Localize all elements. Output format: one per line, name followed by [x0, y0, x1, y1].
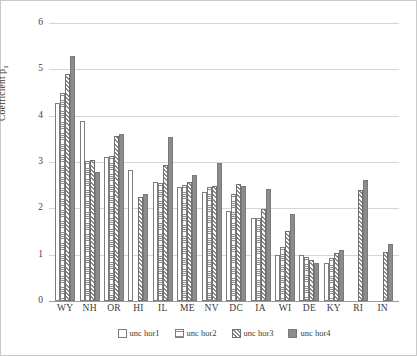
plot-area — [49, 23, 399, 301]
legend-swatch-unc-hor3-icon — [232, 329, 241, 338]
bar-group-wy — [53, 23, 77, 301]
x-tick-label-il: IL — [151, 303, 175, 321]
y-axis-ticks: 0123456 — [1, 23, 49, 301]
x-tick-label-wi: WI — [273, 303, 297, 321]
bar-dc-unc-hor4 — [241, 186, 246, 301]
x-tick-label-me: ME — [175, 303, 199, 321]
bar-ri-unc-hor4 — [363, 180, 368, 301]
x-tick-label-dc: DC — [224, 303, 248, 321]
x-tick-label-in: IN — [370, 303, 394, 321]
bar-il-unc-hor4 — [168, 137, 173, 301]
bar-hi-unc-hor1 — [128, 170, 133, 301]
bar-ky-unc-hor4 — [339, 250, 344, 301]
chart-figure: Coefficient β1 0123456 WYNHORHIILMENVDCI… — [0, 0, 417, 356]
bar-group-de — [297, 23, 321, 301]
bar-group-ri — [346, 23, 370, 301]
legend-label: unc hor3 — [244, 328, 274, 338]
legend-label: unc hor4 — [300, 328, 330, 338]
bar-wy-unc-hor4 — [70, 56, 75, 301]
legend-label: unc hor2 — [187, 328, 217, 338]
y-tick-label-2: 2 — [38, 204, 43, 214]
y-tick-label-5: 5 — [38, 65, 43, 75]
legend-label: unc hor1 — [130, 328, 160, 338]
x-tick-label-wy: WY — [53, 303, 77, 321]
bar-hi-unc-hor4 — [143, 194, 148, 301]
legend-swatch-unc-hor4-icon — [288, 329, 297, 338]
x-tick-label-ri: RI — [346, 303, 370, 321]
bar-group-il — [151, 23, 175, 301]
bar-group-nv — [200, 23, 224, 301]
bar-group-ia — [248, 23, 272, 301]
bar-nv-unc-hor4 — [217, 163, 222, 301]
x-tick-label-ky: KY — [322, 303, 346, 321]
bar-group-me — [175, 23, 199, 301]
x-tick-label-de: DE — [297, 303, 321, 321]
bar-me-unc-hor4 — [192, 175, 197, 301]
x-tick-label-hi: HI — [126, 303, 150, 321]
bar-group-nh — [77, 23, 101, 301]
x-tick-label-nv: NV — [200, 303, 224, 321]
bar-groups — [49, 23, 399, 301]
bar-or-unc-hor4 — [119, 134, 124, 301]
y-tick-label-0: 0 — [38, 296, 43, 306]
bar-de-unc-hor4 — [314, 263, 319, 301]
bar-group-or — [102, 23, 126, 301]
chart-legend: unc hor1unc hor2unc hor3unc hor4 — [49, 325, 399, 341]
legend-item-unc-hor4[interactable]: unc hor4 — [288, 328, 330, 338]
bar-group-dc — [224, 23, 248, 301]
bar-in-unc-hor4 — [388, 244, 393, 301]
x-tick-label-or: OR — [102, 303, 126, 321]
x-tick-label-nh: NH — [77, 303, 101, 321]
x-tick-label-ia: IA — [248, 303, 272, 321]
bar-ia-unc-hor4 — [266, 189, 271, 301]
legend-swatch-unc-hor2-icon — [175, 329, 184, 338]
y-tick-label-6: 6 — [38, 18, 43, 28]
bar-nh-unc-hor4 — [95, 172, 100, 301]
bar-wi-unc-hor4 — [290, 214, 295, 301]
legend-swatch-unc-hor1-icon — [118, 329, 127, 338]
y-tick-label-4: 4 — [38, 111, 43, 121]
legend-item-unc-hor1[interactable]: unc hor1 — [118, 328, 160, 338]
legend-item-unc-hor3[interactable]: unc hor3 — [232, 328, 274, 338]
y-tick-label-1: 1 — [38, 250, 43, 260]
bar-group-hi — [126, 23, 150, 301]
y-tick-label-3: 3 — [38, 157, 43, 167]
bar-group-wi — [273, 23, 297, 301]
gridline-0 — [49, 301, 399, 302]
bar-group-in — [370, 23, 394, 301]
x-axis-ticks: WYNHORHIILMENVDCIAWIDEKYRIIN — [49, 303, 399, 321]
legend-item-unc-hor2[interactable]: unc hor2 — [175, 328, 217, 338]
bar-group-ky — [322, 23, 346, 301]
